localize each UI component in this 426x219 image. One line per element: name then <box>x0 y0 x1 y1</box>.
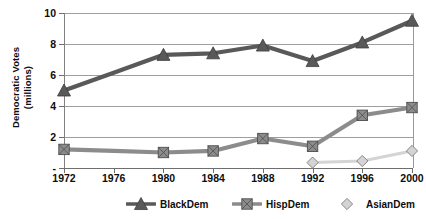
x-tick-label-1980: 1980 <box>152 172 175 184</box>
legend-label-blackdem: BlackDem <box>160 199 208 210</box>
x-axis-labels: 19721976198019841988199219962000 <box>64 172 412 188</box>
plot-area <box>64 13 414 168</box>
y-tick-label-8: 8 <box>30 38 56 50</box>
gridline-2 <box>65 137 413 138</box>
chart-container: Democratic Votes (millions) -246810 1972… <box>0 0 426 219</box>
legend-item-asiandem[interactable]: AsianDem <box>332 196 415 212</box>
gridline-10 <box>65 13 413 14</box>
legend-swatch-hispdem-icon <box>232 197 262 211</box>
y-tick-label-2: 2 <box>30 131 56 143</box>
legend-marker-asiandem <box>341 198 352 209</box>
x-tick-label-1972: 1972 <box>52 172 75 184</box>
gridline-8 <box>65 44 413 45</box>
legend-item-hispdem[interactable]: HispDem <box>232 196 309 212</box>
x-tick-label-1992: 1992 <box>301 172 324 184</box>
x-tick-label-1988: 1988 <box>251 172 274 184</box>
gridline-4 <box>65 106 413 107</box>
legend-item-blackdem[interactable]: BlackDem <box>126 196 208 212</box>
legend-label-hispdem: HispDem <box>266 199 309 210</box>
chart-legend: BlackDemHispDemAsianDem <box>64 196 412 214</box>
x-tick-label-1984: 1984 <box>201 172 224 184</box>
y-tick-label-4: 4 <box>30 100 56 112</box>
legend-swatch-blackdem-icon <box>126 197 156 211</box>
legend-label-asiandem: AsianDem <box>366 199 415 210</box>
x-tick-label-1996: 1996 <box>351 172 374 184</box>
x-tick-label-2000: 2000 <box>400 172 423 184</box>
gridline-6 <box>65 75 413 76</box>
y-tick-label-6: 6 <box>30 69 56 81</box>
legend-marker-hispdem <box>242 199 252 209</box>
x-tick-label-1976: 1976 <box>102 172 125 184</box>
gridline-0 <box>65 168 413 169</box>
y-tick-label-10: 10 <box>30 7 56 19</box>
legend-swatch-asiandem-icon <box>332 197 362 211</box>
